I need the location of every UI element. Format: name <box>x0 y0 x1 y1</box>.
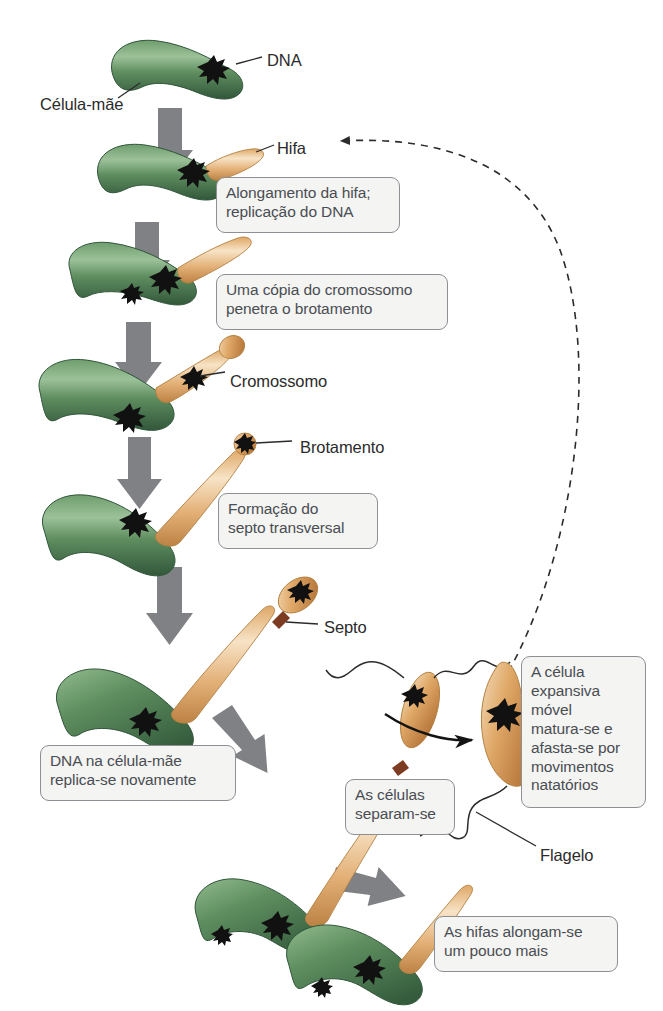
figure-canvas: DNA Célula-mãe Hifa Cromossomo Brotament… <box>0 0 663 1011</box>
callout-alongamento-hifa: Alongamento da hifa; replicação do DNA <box>216 177 400 233</box>
cell-body-green <box>42 495 175 576</box>
label-dna: DNA <box>267 51 302 70</box>
leader-septo <box>286 622 318 624</box>
hypha-orange-stalk <box>171 606 274 723</box>
callout-copia-cromossomo: Uma cópia do cromossomo penetra o brotam… <box>216 274 448 330</box>
hypha-bud-orange <box>206 149 264 181</box>
septum-band <box>272 611 290 629</box>
leader-dna <box>236 57 262 64</box>
upper-flagellum <box>326 662 404 678</box>
label-septo: Septo <box>324 618 367 637</box>
arrow-step-5 <box>146 567 193 645</box>
callout-hifas-alongam: As hifas alongam-se um pouco mais <box>434 916 618 972</box>
label-cromossomo: Cromossomo <box>230 372 327 391</box>
leader-hifa <box>256 145 274 152</box>
stage-1-celula-mae <box>112 40 262 99</box>
label-hifa: Hifa <box>277 139 306 158</box>
callout-formacao-septo: Formação do septo transversal <box>218 493 378 549</box>
label-celula-mae: Célula-mãe <box>40 95 123 114</box>
leader-brotamento <box>256 441 292 443</box>
arrow-step-4 <box>117 437 162 509</box>
callout-celulas-separam: As células separam-se <box>345 779 455 835</box>
label-flagelo: Flagelo <box>540 846 593 865</box>
label-brotamento: Brotamento <box>300 438 384 457</box>
callout-celula-expansiva-movel: A célula expansiva móvel matura-se e afa… <box>521 656 646 808</box>
septum-band <box>392 760 409 776</box>
leader-flagelo <box>476 812 536 846</box>
upper-motile-cell <box>393 668 447 752</box>
callout-dna-replica: DNA na célula-mãe replica-se novamente <box>40 745 236 801</box>
stage-6-septo <box>56 570 324 755</box>
